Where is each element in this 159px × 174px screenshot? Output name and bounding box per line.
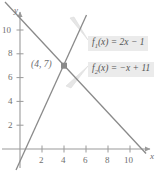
line-f1 — [16, 15, 87, 170]
x-tick-label-10: 10 — [124, 156, 133, 165]
graph-figure: 10 8 6 4 2 2 4 6 8 10 y x (4, 7) f1(x) =… — [0, 0, 159, 174]
x-tick-label-8: 8 — [105, 156, 110, 165]
y-tick-label-10: 10 — [2, 26, 11, 35]
plot-canvas — [0, 0, 159, 174]
y-tick-label-2: 2 — [8, 121, 13, 130]
y-tick-label-6: 6 — [8, 73, 13, 82]
x-axis-name: x — [150, 152, 154, 161]
y-tick-label-4: 4 — [8, 97, 13, 106]
callout-f2-expression: (x) = −x + 11 — [98, 63, 150, 73]
x-tick-label-2: 2 — [39, 156, 44, 165]
callout-f2: f2(x) = −x + 11 — [88, 62, 154, 77]
x-tick-label-6: 6 — [83, 156, 88, 165]
callout-f1: f1(x) = 2x − 1 — [88, 36, 148, 51]
y-axis-name: y — [14, 6, 18, 15]
callout-leader-f2 — [66, 66, 88, 88]
intersection-point-label: (4, 7) — [31, 60, 52, 70]
x-tick-label-4: 4 — [61, 156, 66, 165]
callout-f1-expression: (x) = 2x − 1 — [98, 37, 145, 47]
callout-leader-f1 — [70, 17, 88, 40]
y-tick-label-8: 8 — [8, 49, 13, 58]
intersection-marker — [61, 63, 67, 69]
